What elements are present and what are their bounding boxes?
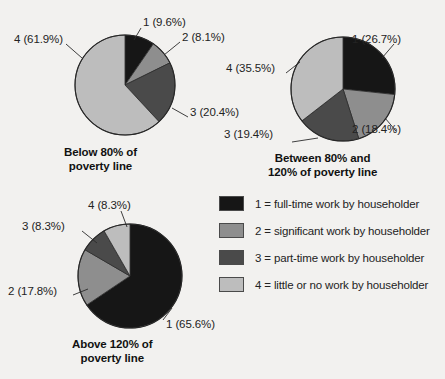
leader-line-c1-s2 (164, 42, 180, 55)
leader-line-c3-s3 (82, 231, 97, 243)
slice-label-c3-3: 3 (8.3%) (22, 220, 65, 232)
leader-line-c1-s4 (66, 44, 82, 58)
legend-item-1: 1 = full-time work by householder (219, 193, 443, 214)
legend: 1 = full-time work by householder 2 = si… (219, 193, 443, 301)
chart-title-between-80-120: Between 80% and 120% of poverty line (268, 152, 377, 179)
pie-chart-figure: 1 (9.6%) 2 (8.1%) 3 (20.4%) 4 (61.9%) Be… (0, 0, 445, 379)
chart3-title-line2: poverty line (72, 352, 153, 366)
legend-label-4: 4 = little or no work by householder (255, 279, 428, 291)
slice-label-c1-1: 1 (9.6%) (143, 16, 186, 28)
pie-slice-c2-1 (343, 37, 395, 95)
slice-label-c3-4: 4 (8.3%) (88, 199, 131, 211)
leader-line-c2-s1 (382, 44, 394, 58)
leader-line-c1-s3 (172, 108, 188, 117)
legend-swatch-4-icon (219, 277, 244, 292)
legend-label-2: 2 = significant work by householder (255, 225, 430, 237)
legend-item-4: 4 = little or no work by householder (219, 274, 443, 295)
slice-label-c2-2: 2 (18.4%) (352, 123, 401, 135)
slice-label-c3-2: 2 (17.8%) (8, 285, 57, 297)
slice-label-c2-3: 3 (19.4%) (224, 128, 273, 140)
legend-item-3: 3 = part-time work by householder (219, 247, 443, 268)
chart-title-below-80: Below 80% of poverty line (64, 146, 137, 173)
legend-label-3: 3 = part-time work by householder (255, 252, 424, 264)
slice-label-c1-3: 3 (20.4%) (190, 106, 239, 118)
chart2-title-line2: 120% of poverty line (268, 166, 377, 180)
legend-swatch-2-icon (219, 223, 244, 238)
legend-item-2: 2 = significant work by householder (219, 220, 443, 241)
slice-label-c3-1: 1 (65.6%) (166, 318, 215, 330)
pie-slices-canvas (0, 0, 445, 379)
chart-title-above-120: Above 120% of poverty line (72, 338, 153, 365)
chart1-title-line2: poverty line (64, 160, 137, 174)
chart1-title-line1: Below 80% of (64, 146, 137, 160)
slice-label-c1-4: 4 (61.9%) (14, 33, 63, 45)
legend-swatch-1-icon (219, 196, 244, 211)
leader-line-c2-s3 (292, 138, 318, 142)
chart3-title-line1: Above 120% of (72, 338, 153, 352)
legend-swatch-3-icon (219, 250, 244, 265)
legend-label-1: 1 = full-time work by householder (255, 198, 419, 210)
slice-label-c1-2: 2 (8.1%) (182, 31, 225, 43)
slice-label-c2-1: 1 (26.7%) (352, 33, 401, 45)
chart2-title-line1: Between 80% and (268, 152, 377, 166)
slice-label-c2-4: 4 (35.5%) (226, 62, 275, 74)
